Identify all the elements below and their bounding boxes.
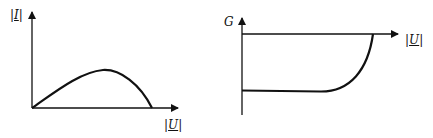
left-x-axis-label: |U| — [164, 119, 182, 131]
left-plot — [32, 12, 178, 108]
figure: |I| |U| G |U| — [0, 0, 433, 138]
abs-bar: | — [178, 118, 182, 132]
abs-bar: | — [419, 33, 423, 47]
right-y-axis-label: G — [224, 16, 234, 28]
left-y-axis-label: |I| — [10, 9, 23, 21]
voltage-symbol: U — [168, 118, 178, 132]
voltage-symbol: U — [409, 33, 419, 47]
abs-bar: | — [19, 8, 23, 22]
plots-canvas — [0, 0, 433, 138]
right-curve — [242, 34, 373, 92]
right-x-axis-label: |U| — [405, 34, 423, 46]
right-plot — [242, 18, 398, 115]
left-curve — [32, 70, 152, 108]
